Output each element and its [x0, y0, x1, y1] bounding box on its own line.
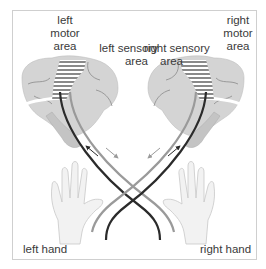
right-sensory-area-label: right sensory area	[144, 42, 222, 68]
arrow-down-right-icon	[106, 148, 118, 158]
label-line: area	[144, 55, 222, 68]
label-line: right	[216, 14, 260, 27]
label-line: right sensory	[144, 42, 222, 55]
right-motor-area-label: right motor area	[216, 14, 260, 53]
right-brain-hemisphere	[148, 56, 244, 148]
left-hand-label: left hand	[23, 243, 67, 256]
label-line: motor	[40, 27, 90, 40]
left-brain-hemisphere	[22, 56, 118, 148]
left-hand-icon	[51, 162, 102, 245]
label-line: motor	[216, 27, 260, 40]
label-line: area	[216, 40, 260, 53]
right-hand-icon	[163, 162, 214, 245]
label-line: left	[40, 14, 90, 27]
arrow-down-left-icon	[148, 148, 160, 158]
right-hand-label: right hand	[200, 243, 251, 256]
